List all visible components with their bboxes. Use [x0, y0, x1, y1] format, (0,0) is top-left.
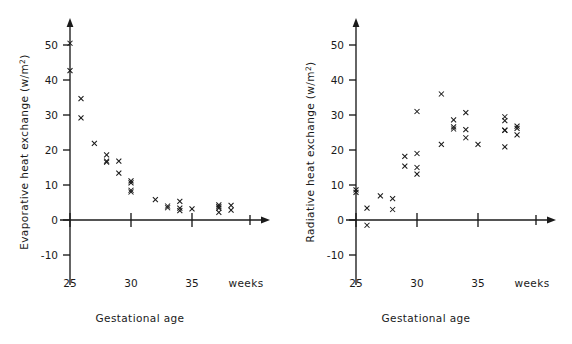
data-point-marker [463, 135, 468, 140]
radiative-y-ticks [349, 45, 356, 255]
data-point-marker [463, 127, 468, 132]
radiative-x-ticklabels: 25 30 35 weeks [349, 277, 549, 289]
y-axis-arrow-icon [67, 18, 74, 27]
x-ticklabel: 30 [410, 277, 423, 289]
data-point-marker [463, 110, 468, 115]
radiative-plot-svg: 50 40 30 20 10 0 -10 25 30 35 weeks Gest… [286, 0, 572, 344]
data-point-marker [415, 172, 420, 177]
x-axis-title: Gestational age [382, 312, 471, 324]
y-ticklabel: 50 [331, 39, 344, 51]
data-point-marker [502, 118, 507, 123]
data-point-marker [378, 193, 383, 198]
x-unit-note: weeks [514, 277, 549, 289]
data-point-marker [116, 159, 121, 164]
data-point-marker [104, 152, 109, 157]
data-point-marker [402, 164, 407, 169]
data-point-marker [364, 223, 369, 228]
evaporative-y-ticks [63, 45, 70, 255]
x-axis-arrow-icon [547, 217, 556, 224]
data-point-marker [415, 109, 420, 114]
y-ticklabel: -10 [327, 249, 344, 261]
x-ticklabel: 25 [349, 277, 362, 289]
data-point-marker [177, 199, 182, 204]
y-axis-title-group: Evaporative heat exchange (w/m2) [18, 54, 31, 250]
data-point-marker [190, 206, 195, 211]
y-ticklabel: 10 [45, 179, 58, 191]
figure-two-scatter-panels: 50 40 30 20 10 0 -10 25 30 35 weeks Gest… [0, 0, 572, 344]
data-point-marker [390, 196, 395, 201]
data-point-marker [390, 207, 395, 212]
y-axis-title: Radiative heat exchange (w/m2) [304, 61, 317, 242]
y-axis-title: Evaporative heat exchange (w/m2) [18, 54, 31, 250]
y-axis-title-main: Evaporative heat exchange (w/m [18, 64, 30, 250]
x-ticklabel: 25 [63, 277, 76, 289]
panel-evaporative: 50 40 30 20 10 0 -10 25 30 35 weeks Gest… [0, 0, 286, 344]
y-axis-title-tail: ) [18, 54, 30, 59]
y-ticklabel: -10 [41, 249, 58, 261]
data-point-marker [515, 132, 520, 137]
radiative-axes [346, 18, 556, 285]
x-axis-title: Gestational age [96, 312, 185, 324]
y-ticklabel: 50 [45, 39, 58, 51]
y-ticklabel: 40 [331, 74, 344, 86]
y-axis-title-group: Radiative heat exchange (w/m2) [304, 61, 317, 242]
data-point-marker [439, 92, 444, 97]
panel-radiative: 50 40 30 20 10 0 -10 25 30 35 weeks Gest… [286, 0, 572, 344]
evaporative-x-ticklabels: 25 30 35 weeks [63, 277, 263, 289]
evaporative-plot-svg: 50 40 30 20 10 0 -10 25 30 35 weeks Gest… [0, 0, 286, 344]
y-ticklabel: 40 [45, 74, 58, 86]
x-axis-arrow-icon [261, 217, 270, 224]
data-point-marker [153, 197, 158, 202]
y-axis-title-tail: ) [304, 61, 316, 66]
data-point-marker [415, 151, 420, 156]
data-point-marker [116, 171, 121, 176]
y-ticklabel: 10 [331, 179, 344, 191]
data-point-marker [229, 208, 234, 213]
data-point-marker [78, 115, 83, 120]
y-ticklabel: 20 [45, 144, 58, 156]
data-point-marker [476, 142, 481, 147]
y-ticklabel: 0 [337, 214, 344, 226]
data-point-marker [451, 117, 456, 122]
data-point-marker [364, 206, 369, 211]
y-ticklabel: 0 [51, 214, 58, 226]
y-ticklabel: 20 [331, 144, 344, 156]
radiative-data-markers [354, 92, 520, 228]
x-unit-note: weeks [228, 277, 263, 289]
y-axis-title-main: Radiative heat exchange (w/m [304, 71, 316, 243]
y-ticklabel: 30 [331, 109, 344, 121]
data-point-marker [502, 128, 507, 133]
data-point-marker [229, 203, 234, 208]
x-ticklabel: 35 [471, 277, 484, 289]
x-ticklabel: 35 [185, 277, 198, 289]
evaporative-y-ticklabels: 50 40 30 20 10 0 -10 [41, 39, 58, 261]
data-point-marker [216, 210, 221, 215]
data-point-marker [402, 154, 407, 159]
evaporative-axes [60, 18, 270, 285]
evaporative-data-markers [68, 41, 234, 215]
data-point-marker [439, 142, 444, 147]
data-point-marker [92, 141, 97, 146]
data-point-marker [415, 165, 420, 170]
data-point-marker [78, 96, 83, 101]
data-point-marker [502, 144, 507, 149]
y-ticklabel: 30 [45, 109, 58, 121]
y-axis-arrow-icon [353, 18, 360, 27]
x-ticklabel: 30 [124, 277, 137, 289]
radiative-y-ticklabels: 50 40 30 20 10 0 -10 [327, 39, 344, 261]
